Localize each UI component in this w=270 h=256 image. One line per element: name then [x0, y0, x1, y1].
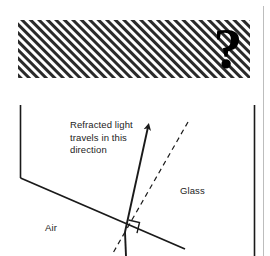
air-glass-interface: [21, 178, 186, 249]
incident-ray: [125, 232, 126, 256]
masked-answer-region: ?: [18, 16, 250, 81]
refraction-diagram-svg: ?: [0, 0, 270, 256]
normal-line-dashed-lower: [113, 232, 125, 253]
label-refracted-line2: travels in this: [70, 132, 127, 143]
label-air: Air: [45, 222, 57, 235]
label-refracted-line1: Refracted light: [70, 119, 133, 130]
figure-canvas: ? Refracted lighttravels in thisdirectio…: [0, 0, 270, 256]
label-refracted-line3: direction: [70, 144, 107, 155]
label-refracted-light: Refracted lighttravels in thisdirection: [70, 119, 133, 157]
question-mark-glyph: ?: [214, 16, 243, 81]
label-glass: Glass: [180, 185, 205, 198]
normal-line-dashed: [125, 122, 188, 232]
